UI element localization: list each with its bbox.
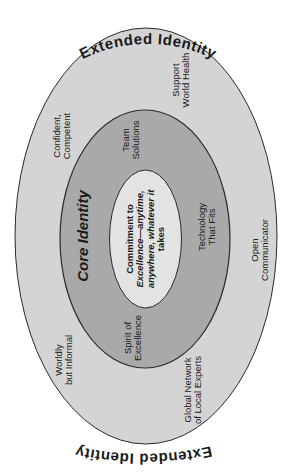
core-identity-title: Core Identity	[75, 190, 91, 282]
center-commitment-text: Commitment to Excellence—anytime, anywhe…	[125, 190, 167, 289]
label-support-world-health: Support World Health	[171, 53, 192, 108]
label-technology-that-fits: Technology That Fits	[197, 203, 218, 251]
label-open-communicator: Open Communicator	[250, 219, 271, 281]
identity-diagram: Extended Identity Extended Identity Conf…	[0, 0, 281, 472]
label-team-solutions: Team Solutions	[121, 120, 142, 159]
label-worldly-but-informal: Worldly but Informal	[54, 335, 75, 385]
label-global-network: Global Network of Local Experts	[183, 356, 204, 424]
label-confident-competent: Confident, Competent	[52, 113, 73, 159]
extended-identity-bottom-title: Extended Identity	[73, 443, 214, 467]
label-spirit-of-excellence: Spirit of Excellence	[123, 315, 144, 361]
